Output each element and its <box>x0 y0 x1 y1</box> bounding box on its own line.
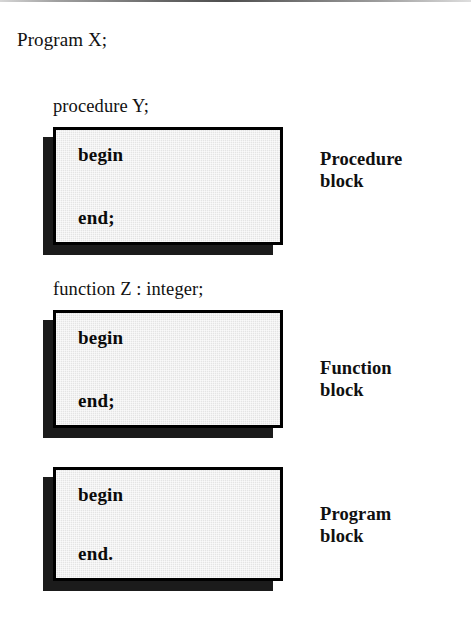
function-begin-keyword: begin <box>78 327 123 348</box>
procedure-end-keyword: end; <box>78 207 115 228</box>
procedure-declaration-text: procedure Y; <box>53 96 149 117</box>
function-declaration-text: function Z : integer; <box>53 279 204 300</box>
program-block-box: begin end. <box>53 467 283 581</box>
procedure-block-group: begin end; <box>53 127 283 245</box>
procedure-block-box: begin end; <box>53 127 283 245</box>
program-header-text: Program X; <box>17 29 107 51</box>
procedure-block-caption: Procedure block <box>320 148 402 192</box>
pascal-block-structure-diagram: Program X; procedure Y; begin end; Proce… <box>0 0 471 620</box>
function-end-keyword: end; <box>78 390 115 411</box>
function-block-group: begin end; <box>53 310 283 428</box>
function-block-caption: Function block <box>320 357 392 401</box>
function-block-box: begin end; <box>53 310 283 428</box>
program-begin-keyword: begin <box>78 484 123 505</box>
program-block-group: begin end. <box>53 467 283 581</box>
procedure-begin-keyword: begin <box>78 144 123 165</box>
program-block-caption: Program block <box>320 503 391 547</box>
program-end-keyword: end. <box>78 543 113 564</box>
